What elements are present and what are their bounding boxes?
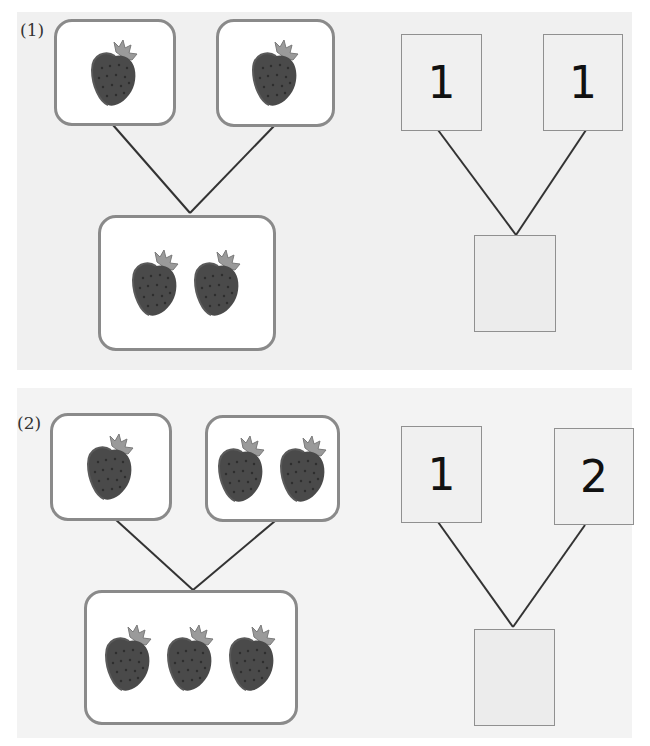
strawberry-icon	[189, 248, 247, 318]
picture-box-right	[216, 19, 335, 127]
picture-box-right	[205, 415, 340, 522]
strawberry-icon	[100, 623, 158, 693]
strawberry-icon	[86, 38, 144, 108]
strawberry-icon	[82, 432, 140, 502]
strawberry-icon	[213, 434, 271, 504]
number-box-left: 1	[401, 426, 482, 523]
picture-box-total	[84, 590, 298, 725]
picture-box-total	[98, 215, 276, 351]
answer-box[interactable]	[474, 629, 555, 726]
strawberry-icon	[275, 434, 333, 504]
answer-box[interactable]	[474, 235, 556, 332]
strawberry-icon	[224, 623, 282, 693]
problem-label-1: (1)	[20, 20, 44, 40]
number-box-left: 1	[401, 34, 482, 131]
problem-label-2: (2)	[17, 413, 41, 433]
picture-box-left	[54, 19, 176, 126]
number-box-right: 1	[543, 34, 623, 131]
number-box-right: 2	[554, 428, 634, 525]
strawberry-icon	[247, 38, 305, 108]
strawberry-icon	[127, 248, 185, 318]
strawberry-icon	[162, 623, 220, 693]
picture-box-left	[50, 413, 172, 521]
